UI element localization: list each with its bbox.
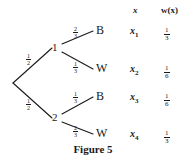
branch-prob-root-node1-denominator: 2 xyxy=(26,60,31,66)
tree-node-1: 1 xyxy=(52,41,58,53)
weight-row-3: 1 6 xyxy=(164,93,170,109)
branch-prob-node1-b-numerator: 2 xyxy=(73,26,78,33)
branch-prob-node2-b-numerator: 1 xyxy=(73,91,78,98)
edge-root-to-node1 xyxy=(13,48,52,83)
branch-prob-node1-b: 2 3 xyxy=(73,26,78,40)
weight-row-2: 1 6 xyxy=(164,65,170,81)
figure-probability-tree: 1 2 1 2 1 2 2 3 1 3 1 3 2 xyxy=(0,0,186,165)
leaf-label-1: B xyxy=(96,23,104,38)
weight-row-2-denominator: 6 xyxy=(164,73,170,80)
branch-prob-node2-b-denominator: 3 xyxy=(73,98,78,104)
branch-prob-root-node1-numerator: 1 xyxy=(26,53,31,60)
weight-row-3-denominator: 6 xyxy=(164,101,170,108)
tree-edges xyxy=(0,0,186,165)
branch-prob-root-node2: 1 2 xyxy=(26,98,31,112)
branch-prob-root-node1: 1 2 xyxy=(26,53,31,67)
weight-row-1-denominator: 3 xyxy=(164,35,170,42)
outcome-row-1: x1 xyxy=(130,25,139,39)
outcome-row-2: x2 xyxy=(130,63,139,77)
branch-prob-root-node2-numerator: 1 xyxy=(26,98,31,105)
column-header-weight: w(x) xyxy=(161,5,178,15)
outcome-row-4-index: 4 xyxy=(135,134,139,142)
outcome-row-3-index: 3 xyxy=(135,97,139,105)
branch-prob-root-node2-denominator: 2 xyxy=(26,105,31,111)
weight-row-1: 1 3 xyxy=(164,27,170,43)
outcome-row-1-index: 1 xyxy=(135,31,139,39)
branch-prob-node1-b-denominator: 3 xyxy=(73,33,78,39)
tree-node-2: 2 xyxy=(52,111,58,123)
column-header-outcome: x xyxy=(133,5,138,15)
outcome-row-2-index: 2 xyxy=(135,69,139,77)
branch-prob-node2-w: 2 3 xyxy=(73,125,78,139)
branch-prob-node1-w-numerator: 1 xyxy=(73,61,78,68)
branch-prob-node1-w: 1 3 xyxy=(73,61,78,75)
edge-root-to-node2 xyxy=(13,83,52,118)
leaf-label-4: W xyxy=(96,126,107,141)
branch-prob-node2-w-numerator: 2 xyxy=(73,125,78,132)
branch-prob-node2-w-denominator: 3 xyxy=(73,132,78,138)
leaf-label-2: W xyxy=(96,61,107,76)
branch-prob-node1-w-denominator: 3 xyxy=(73,68,78,74)
leaf-label-3: B xyxy=(96,89,104,104)
outcome-row-4: x4 xyxy=(130,128,139,142)
branch-prob-node2-b: 1 3 xyxy=(73,91,78,105)
outcome-row-3: x3 xyxy=(130,91,139,105)
figure-caption: Figure 5 xyxy=(0,143,186,155)
